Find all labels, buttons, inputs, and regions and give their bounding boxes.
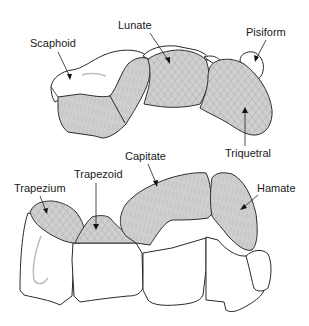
hamate-bone xyxy=(211,173,258,251)
label-scaphoid: Scaphoid xyxy=(30,37,76,49)
scaphoid-bone xyxy=(51,50,150,138)
label-capitate: Capitate xyxy=(125,150,166,162)
label-hamate: Hamate xyxy=(257,182,296,194)
leader-pisiform xyxy=(256,40,266,59)
label-triquetral: Triquetral xyxy=(225,147,271,159)
label-lunate: Lunate xyxy=(118,19,152,31)
label-trapezium: Trapezium xyxy=(14,182,66,194)
leader-capitate xyxy=(148,164,156,183)
label-pisiform: Pisiform xyxy=(246,26,286,38)
capitate-bone xyxy=(120,173,212,245)
carpal-bones-diagram: Scaphoid Lunate Pisiform Triquetral Trap… xyxy=(0,0,309,326)
label-trapezoid: Trapezoid xyxy=(74,168,123,180)
lunate-bone xyxy=(143,46,210,107)
proximal-row xyxy=(51,46,272,138)
